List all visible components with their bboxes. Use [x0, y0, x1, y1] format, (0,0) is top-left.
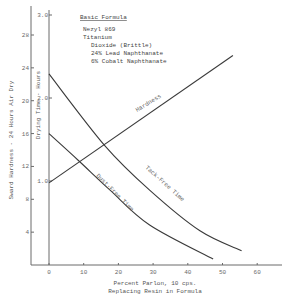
legend-title: Basic Formula [80, 14, 127, 21]
x-tick-label: 10 [80, 269, 88, 276]
series-dust-free-time [49, 134, 213, 259]
curves [49, 56, 242, 259]
y-left-tick-label: 24 [22, 65, 30, 72]
y-left-tick-label: 20 [22, 98, 30, 105]
y-inner-tick-label: 1.0 [37, 178, 48, 185]
y-left-tick-label: 8 [25, 196, 29, 203]
x-tick-label: 40 [184, 269, 192, 276]
dust-free-label: Dust-Free Time [95, 172, 136, 213]
legend-line: Titanium [83, 34, 112, 41]
hardness-label: Hardness [134, 93, 163, 114]
y-inner-tick-label: 3.0 [37, 12, 48, 19]
chart: 01020304050604812162024281.02.03.0 Basic… [0, 0, 292, 300]
series-hardness [49, 56, 233, 183]
legend-line: Nezyl 869 [83, 26, 116, 33]
x-tick-label: 20 [115, 269, 123, 276]
x-tick-label: 30 [149, 269, 157, 276]
legend-line: 6% Cobalt Naphthanate [91, 58, 167, 65]
chart-texts: Basic Formula Nezyl 869 Titanium Dioxide… [8, 14, 202, 295]
y-left-tick-label: 28 [22, 32, 30, 39]
x-axis-subtitle: Replacing Resin in Formula [108, 288, 202, 295]
y-left-tick-label: 16 [22, 131, 30, 138]
tack-free-label: Tack-Free Time [144, 164, 186, 203]
legend-line: Dioxide (Brittle) [91, 42, 152, 49]
x-tick-label: 60 [254, 269, 262, 276]
x-tick-label: 0 [47, 269, 51, 276]
y-axis-title-left: Sward Hardness - 24 Hours Air Dry [8, 80, 15, 199]
y-left-tick-label: 12 [22, 163, 30, 170]
y-left-tick-label: 4 [25, 229, 29, 236]
legend-line: 24% Lead Naphthanate [91, 50, 163, 57]
x-tick-label: 50 [219, 269, 227, 276]
x-axis-title: Percent Parlon, 10 cps. [114, 280, 197, 287]
y-axis-title-inner: Drying Time - Hours [35, 70, 42, 139]
